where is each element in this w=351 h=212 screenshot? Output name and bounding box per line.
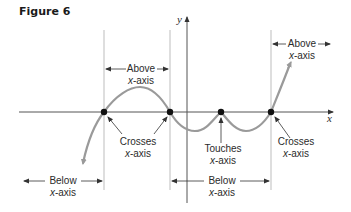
svg-text:Touches: Touches (204, 143, 241, 154)
point-label-crosses-2: Crosses x-axis (275, 117, 314, 159)
svg-text:Below: Below (49, 175, 77, 186)
y-axis-label: y (176, 13, 182, 25)
zero-point-1 (101, 109, 107, 115)
region-label-below-1: Below x-axis (24, 175, 102, 198)
zero-point-3 (218, 109, 224, 115)
svg-text:x-axis: x-axis (124, 148, 151, 159)
svg-text:Below: Below (208, 175, 236, 186)
svg-text:x-axis: x-axis (127, 75, 154, 86)
zero-point-2 (167, 109, 173, 115)
svg-text:x-axis: x-axis (288, 50, 315, 61)
region-label-above-1: Above x-axis (106, 63, 168, 86)
svg-text:Above: Above (127, 63, 156, 74)
svg-text:x-axis: x-axis (208, 187, 235, 198)
curve-left-arrow (83, 158, 84, 164)
zero-point-4 (268, 109, 274, 115)
x-axis-label: x (326, 112, 332, 124)
svg-text:x-axis: x-axis (49, 187, 76, 198)
region-label-above-2: Above x-axis (273, 38, 330, 61)
point-label-touches: Touches x-axis (204, 118, 241, 166)
svg-text:x-axis: x-axis (282, 148, 309, 159)
svg-text:Crosses: Crosses (120, 136, 157, 147)
polynomial-sign-diagram: x y Above x-axis Above x-axis Below x-ax… (0, 0, 351, 212)
svg-text:x-axis: x-axis (209, 155, 236, 166)
svg-text:Crosses: Crosses (278, 136, 315, 147)
svg-text:Above: Above (288, 38, 317, 49)
point-label-crosses-1: Crosses x-axis (108, 117, 167, 159)
